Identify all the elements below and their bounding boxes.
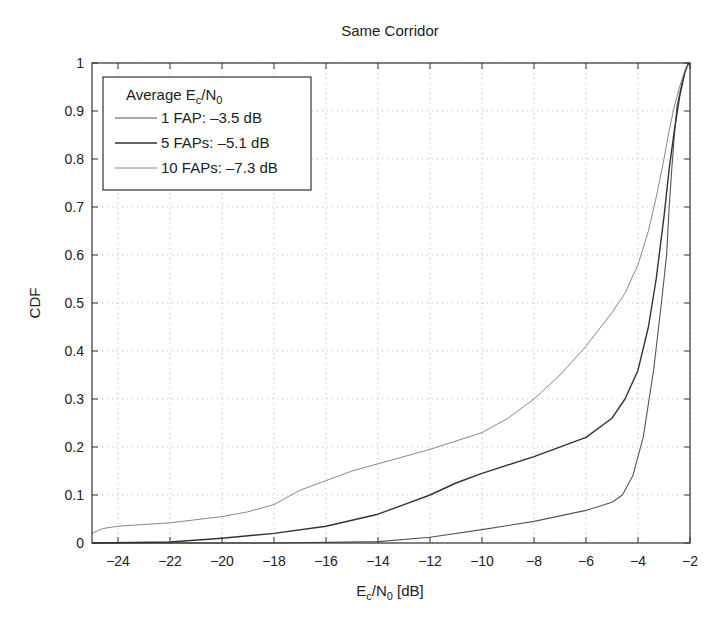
x-axis-label: Ec/N0 [dB] (356, 582, 424, 602)
legend-entry: 10 FAPs: –7.3 dB (161, 159, 278, 176)
chart-title: Same Corridor (341, 22, 439, 39)
x-tick-label: −2 (682, 553, 698, 569)
x-tick-label: −6 (578, 553, 594, 569)
y-axis-label: CDF (26, 288, 43, 319)
y-tick-label: 0.3 (65, 391, 85, 407)
y-tick-label: 0.7 (65, 199, 85, 215)
legend: Average Ec/N0 1 FAP: –3.5 dB5 FAPs: –5.1… (103, 77, 311, 190)
y-tick-label: 0.5 (65, 295, 85, 311)
y-tick-label: 1 (76, 55, 84, 71)
x-tick-label: −24 (106, 553, 130, 569)
legend-entry: 1 FAP: –3.5 dB (161, 109, 262, 126)
legend-entry: 5 FAPs: –5.1 dB (161, 134, 269, 151)
y-tick-label: 0.4 (65, 343, 85, 359)
x-tick-label: −16 (314, 553, 338, 569)
y-tick-label: 0.9 (65, 103, 85, 119)
x-tick-label: −20 (210, 553, 234, 569)
x-tick-label: −4 (630, 553, 646, 569)
x-tick-label: −12 (418, 553, 442, 569)
y-tick-label: 0 (76, 535, 84, 551)
y-tick-label: 0.8 (65, 151, 85, 167)
x-tick-label: −8 (526, 553, 542, 569)
x-tick-label: −14 (366, 553, 390, 569)
cdf-chart: Same Corridor −24−22−20−18−16−14−12−10−8… (0, 0, 725, 627)
y-tick-label: 0.6 (65, 247, 85, 263)
x-tick-label: −10 (470, 553, 494, 569)
x-tick-label: −22 (158, 553, 182, 569)
x-tick-label: −18 (262, 553, 286, 569)
y-tick-label: 0.2 (65, 439, 85, 455)
y-tick-label: 0.1 (65, 487, 85, 503)
